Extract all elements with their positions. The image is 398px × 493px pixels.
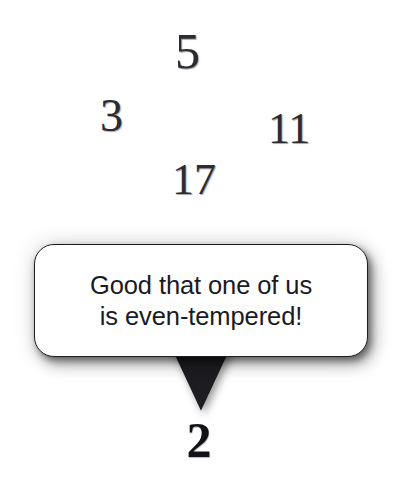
speech-bubble-line-1: Good that one of us — [90, 270, 312, 300]
speech-bubble-line-2: is even-tempered! — [100, 301, 302, 331]
speech-bubble-body: Good that one of us is even-tempered! — [34, 244, 368, 357]
speech-bubble-tail — [173, 348, 229, 408]
prime-number-3: 3 — [100, 93, 123, 139]
speech-bubble: Good that one of us is even-tempered! — [34, 244, 368, 357]
comic-panel: 5 3 11 17 Good that one of us is even-te… — [0, 0, 398, 493]
prime-number-5: 5 — [175, 26, 200, 76]
prime-number-11: 11 — [268, 107, 310, 151]
number-two-speaker: 2 — [0, 415, 398, 465]
prime-number-17: 17 — [172, 158, 216, 202]
